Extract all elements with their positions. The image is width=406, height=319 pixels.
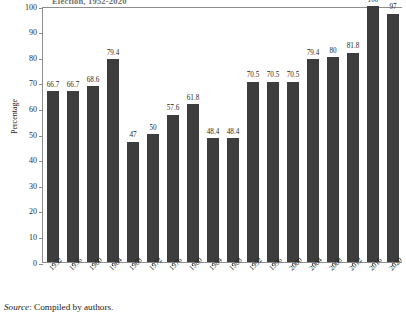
bar-value-label: 68.6 <box>87 77 100 84</box>
chart-title-cropped: Election, 1952-2020 <box>52 0 252 5</box>
bar-value-label: 70.5 <box>247 72 260 79</box>
bar-series: 66.766.768.679.4475057.661.848.448.470.5… <box>43 8 402 262</box>
figure-container: Election, 1952-2020 Percentage 010203040… <box>0 0 406 319</box>
bar-value-label: 48.4 <box>207 129 220 136</box>
bar-value-label: 61.8 <box>187 95 200 102</box>
source-text: : Compiled by authors. <box>29 302 113 312</box>
bar-slot[interactable]: 50 <box>147 8 159 262</box>
bar-value-label: 48.4 <box>227 129 240 136</box>
bar-slot[interactable]: 48.4 <box>207 8 219 262</box>
plot-area: 0102030405060708090100 66.766.768.679.44… <box>42 7 402 263</box>
bar[interactable] <box>127 142 139 262</box>
y-tick-mark <box>39 264 43 265</box>
y-tick-label: 80 <box>29 54 37 63</box>
bar-slot[interactable]: 80 <box>327 8 339 262</box>
bar-value-label: 97 <box>389 4 396 11</box>
y-tick-label: 10 <box>29 233 37 242</box>
bar-slot[interactable]: 57.6 <box>167 8 179 262</box>
bar[interactable] <box>247 82 259 262</box>
bar[interactable] <box>347 53 359 262</box>
bar-value-label: 66.7 <box>67 82 80 89</box>
source-note: Source: Compiled by authors. <box>4 302 113 312</box>
source-label: Source <box>4 302 29 312</box>
bar-slot[interactable]: 70.5 <box>247 8 259 262</box>
bar[interactable] <box>387 14 399 262</box>
bar-value-label: 47 <box>129 132 136 139</box>
y-tick-label: 70 <box>29 79 37 88</box>
bar[interactable] <box>367 6 379 262</box>
bar-value-label: 100 <box>368 0 379 4</box>
bar[interactable] <box>227 138 239 262</box>
y-tick-label: 90 <box>29 28 37 37</box>
bar-value-label: 66.7 <box>47 82 60 89</box>
bar-slot[interactable]: 66.7 <box>67 8 79 262</box>
bar[interactable] <box>67 91 79 262</box>
bar-value-label: 70.5 <box>267 72 280 79</box>
bar-value-label: 79.4 <box>307 50 320 57</box>
bar-value-label: 80 <box>329 48 336 55</box>
bar[interactable] <box>327 57 339 262</box>
bar[interactable] <box>267 82 279 262</box>
bar-value-label: 57.6 <box>167 105 180 112</box>
bar-slot[interactable]: 61.8 <box>187 8 199 262</box>
bar-slot[interactable]: 70.5 <box>267 8 279 262</box>
y-tick-label: 60 <box>29 105 37 114</box>
bar-value-label: 70.5 <box>287 72 300 79</box>
bar[interactable] <box>147 134 159 262</box>
bar-slot[interactable]: 97 <box>387 8 399 262</box>
bar-slot[interactable]: 79.4 <box>107 8 119 262</box>
bar-slot[interactable]: 66.7 <box>47 8 59 262</box>
bar-slot[interactable]: 100 <box>367 8 379 262</box>
bar[interactable] <box>107 59 119 262</box>
bar-slot[interactable]: 79.4 <box>307 8 319 262</box>
bar-value-label: 50 <box>149 125 156 132</box>
y-tick-label: 30 <box>29 182 37 191</box>
bar-value-label: 79.4 <box>107 50 120 57</box>
y-tick-label: 0 <box>33 259 37 268</box>
bar-slot[interactable]: 47 <box>127 8 139 262</box>
bar-slot[interactable]: 68.6 <box>87 8 99 262</box>
y-tick-label: 20 <box>29 207 37 216</box>
bar[interactable] <box>207 138 219 262</box>
bar-slot[interactable]: 70.5 <box>287 8 299 262</box>
bar[interactable] <box>87 86 99 262</box>
bar[interactable] <box>167 115 179 262</box>
bar[interactable] <box>307 59 319 262</box>
bar-value-label: 81.8 <box>347 43 360 50</box>
bar-slot[interactable]: 48.4 <box>227 8 239 262</box>
bar[interactable] <box>287 82 299 262</box>
bar-slot[interactable]: 81.8 <box>347 8 359 262</box>
y-tick-label: 40 <box>29 156 37 165</box>
bar[interactable] <box>47 91 59 262</box>
bar[interactable] <box>187 104 199 262</box>
y-tick-label: 100 <box>25 3 37 12</box>
y-axis-title: Percentage <box>10 67 19 167</box>
y-tick-label: 50 <box>29 131 37 140</box>
